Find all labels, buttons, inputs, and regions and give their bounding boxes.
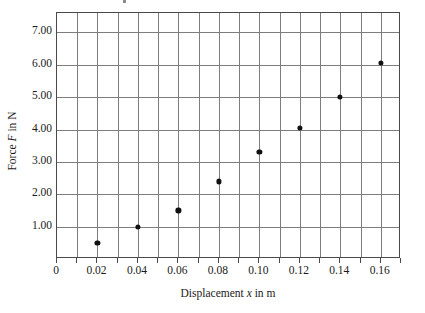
x-axis-title: Displacement x in m [56,287,400,299]
gridline-vertical [361,13,362,257]
x-tick-label: 0.02 [86,265,106,277]
y-axis-title: Force F in N [6,81,18,201]
gridline-vertical [77,13,78,257]
x-tick-mark [218,258,219,263]
x-tick-label: 0.12 [289,265,309,277]
gridline-horizontal [57,32,399,33]
x-tick-mark [96,258,97,263]
data-point [95,240,100,245]
x-tick-label: 0.14 [329,265,349,277]
x-tick-mark [360,258,361,263]
data-point [176,208,181,213]
gridline-horizontal [57,194,399,195]
gridline-vertical [138,13,139,257]
y-axis-title-suffix: in N [6,111,18,134]
x-tick-mark [400,258,401,263]
x-tick-mark [339,258,340,263]
plot-area [56,12,400,258]
gridline-vertical [320,13,321,257]
x-tick-label: 0.06 [167,265,187,277]
x-tick-mark [238,258,239,263]
x-tick-label: 0.16 [370,265,390,277]
gridline-horizontal [57,97,399,98]
scatter-chart-figure: 1.002.003.004.005.006.007.00 00.020.040.… [0,0,425,313]
x-tick-mark [76,258,77,263]
x-tick-label: 0.10 [248,265,268,277]
y-tick-label: 1.00 [32,220,52,232]
x-tick-mark [380,258,381,263]
x-tick-mark [137,258,138,263]
y-tick-label: 7.00 [32,26,52,38]
gridline-vertical [158,13,159,257]
x-tick-mark [299,258,300,263]
gridline-vertical [259,13,260,257]
data-point [216,179,221,184]
gridline-vertical [219,13,220,257]
gridline-vertical [381,13,382,257]
x-tick-mark [56,258,57,263]
x-axis-title-prefix: Displacement [181,287,247,299]
data-point [135,224,140,229]
gridline-vertical [118,13,119,257]
gridline-vertical [300,13,301,257]
gridline-vertical [178,13,179,257]
x-tick-mark [117,258,118,263]
data-point [338,95,343,100]
y-tick-label: 2.00 [32,188,52,200]
gridline-horizontal [57,65,399,66]
x-tick-label: 0 [53,265,59,277]
x-axis-tick-labels: 00.020.040.060.080.100.120.140.16 [0,265,425,281]
x-tick-mark [279,258,280,263]
gridline-vertical [239,13,240,257]
x-tick-mark [157,258,158,263]
x-tick-label: 0.08 [208,265,228,277]
x-tick-mark [198,258,199,263]
gridline-horizontal [57,130,399,131]
x-tick-mark [258,258,259,263]
y-tick-label: 3.00 [32,155,52,167]
y-axis-title-prefix: Force [6,141,18,170]
gridline-horizontal [57,162,399,163]
gridline-vertical [199,13,200,257]
x-tick-label: 0.04 [127,265,147,277]
y-tick-label: 6.00 [32,58,52,70]
x-tick-mark [319,258,320,263]
y-axis-title-symbol: F [6,134,18,141]
gridline-vertical [280,13,281,257]
gridline-vertical [97,13,98,257]
y-tick-label: 4.00 [32,123,52,135]
gridline-horizontal [57,227,399,228]
x-tick-mark [177,258,178,263]
cropped-text-artifact [123,0,126,3]
y-tick-label: 5.00 [32,90,52,102]
gridline-vertical [340,13,341,257]
data-point [257,150,262,155]
x-axis-title-suffix: in m [252,287,276,299]
